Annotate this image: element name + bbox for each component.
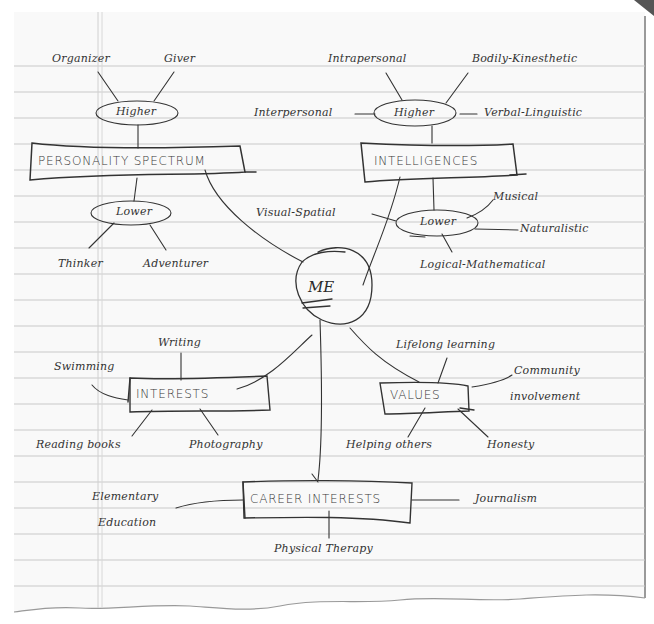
ps-giver: Giver (164, 52, 195, 65)
career-title: CAREER INTERESTS (250, 492, 381, 506)
int-verbal-linguistic: Verbal-Linguistic (484, 106, 582, 119)
interests-photography: Photography (189, 438, 263, 451)
int-musical: Musical (493, 190, 538, 203)
values-helping-others: Helping others (346, 438, 432, 451)
values-lifelong-learning: Lifelong learning (396, 338, 495, 351)
values-community: Community (514, 364, 580, 377)
career-journalism: Journalism (475, 492, 537, 505)
ps-thinker: Thinker (58, 257, 103, 270)
int-lower: Lower (420, 215, 456, 228)
values-involvement: involvement (510, 390, 580, 403)
paper-and-connectors (0, 0, 654, 624)
int-naturalistic: Naturalistic (520, 222, 589, 235)
values-honesty: Honesty (487, 438, 535, 451)
interests-title: INTERESTS (136, 387, 209, 401)
ps-adventurer: Adventurer (143, 257, 208, 270)
interests-swimming: Swimming (54, 360, 115, 373)
int-higher: Higher (394, 106, 434, 119)
interests-reading-books: Reading books (36, 438, 121, 451)
interests-writing: Writing (158, 336, 201, 349)
ruled-lines (14, 66, 645, 586)
ps-higher: Higher (116, 105, 156, 118)
career-elementary: Elementary (92, 490, 159, 503)
career-physical-therapy: Physical Therapy (274, 542, 373, 555)
int-intrapersonal: Intrapersonal (328, 52, 407, 65)
values-title: VALUES (390, 388, 441, 402)
int-title: INTELLIGENCES (374, 154, 478, 168)
ps-title: PERSONALITY SPECTRUM (38, 154, 206, 168)
me-label: ME (308, 278, 334, 296)
int-interpersonal: Interpersonal (254, 106, 332, 119)
int-bodily-kinesthetic: Bodily-Kinesthetic (472, 52, 577, 65)
ps-organizer: Organizer (52, 52, 110, 65)
ps-lower: Lower (116, 205, 152, 218)
career-education: Education (98, 516, 156, 529)
int-logical-mathematical: Logical-Mathematical (420, 258, 545, 271)
int-visual-spatial: Visual-Spatial (256, 206, 336, 219)
